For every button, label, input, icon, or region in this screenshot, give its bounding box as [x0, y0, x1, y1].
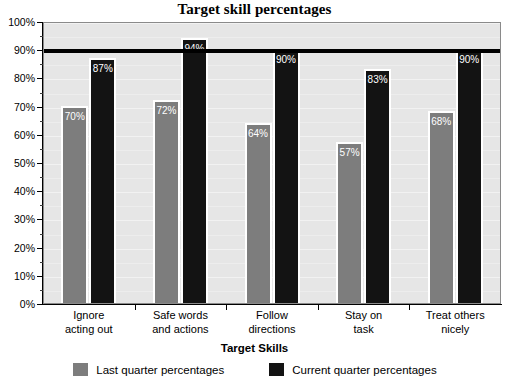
y-axis-minor-tick-mark	[40, 121, 43, 122]
bar-last-quarter: 68%	[428, 111, 455, 303]
y-axis-minor-tick-mark	[40, 36, 43, 37]
bar-value-label: 70%	[63, 111, 86, 122]
y-axis-tick-mark	[37, 191, 43, 192]
bar-current-quarter: 94%	[181, 38, 208, 303]
y-axis-tick-mark	[37, 163, 43, 164]
bar-value-label: 90%	[275, 54, 298, 65]
x-axis-line	[42, 304, 502, 305]
y-axis-minor-tick-mark	[40, 93, 43, 94]
y-axis-minor-tick-mark	[40, 64, 43, 65]
y-axis-tick-mark	[37, 78, 43, 79]
y-axis-minor-tick-mark	[40, 177, 43, 178]
legend-swatch-last-quarter	[72, 362, 89, 377]
legend-swatch-current-quarter	[268, 362, 285, 377]
x-axis-title: Target Skills	[0, 342, 509, 354]
y-axis-tick-label: 20%	[14, 243, 35, 253]
y-axis-minor-tick-mark	[40, 234, 43, 235]
reference-line-90-percent	[44, 49, 500, 53]
bar-value-label: 72%	[155, 105, 178, 116]
y-axis-tick-label: 40%	[14, 186, 35, 196]
y-axis-tick-mark	[37, 50, 43, 51]
bar-current-quarter: 90%	[273, 49, 300, 303]
gridline	[44, 23, 500, 24]
category-label-line: nicely	[409, 323, 501, 337]
y-axis-tick-mark	[37, 22, 43, 23]
gridline	[44, 37, 500, 38]
x-axis-category-label: Followdirections	[226, 309, 318, 336]
x-axis-tick-mark	[135, 305, 136, 310]
y-axis-tick-mark	[37, 276, 43, 277]
x-axis-category-label: Treat othersnicely	[409, 309, 501, 336]
x-axis-category-label: Safe wordsand actions	[135, 309, 227, 336]
x-axis-tick-mark	[409, 305, 410, 310]
y-axis-tick-label: 90%	[14, 45, 35, 55]
legend-label-current-quarter: Current quarter percentages	[292, 364, 436, 376]
y-axis-minor-tick-mark	[40, 262, 43, 263]
category-label-line: Safe words	[135, 309, 227, 323]
category-label-line: directions	[226, 323, 318, 337]
y-axis-tick-label: 60%	[14, 130, 35, 140]
category-label-line: and actions	[135, 323, 227, 337]
y-axis-tick-mark	[37, 248, 43, 249]
x-axis-category-label: Stay ontask	[318, 309, 410, 336]
legend-item-current-quarter: Current quarter percentages	[268, 362, 436, 377]
y-axis-tick-labels: 0%10%20%30%40%50%60%70%80%90%100%	[0, 0, 43, 390]
y-axis-tick-label: 0%	[20, 299, 35, 309]
x-axis-category-labels: Ignoreacting outSafe wordsand actionsFol…	[43, 309, 501, 343]
y-axis-tick-mark	[37, 135, 43, 136]
x-axis-category-label: Ignoreacting out	[43, 309, 135, 336]
plot-area: 70%87%72%94%64%90%57%83%68%90%	[43, 22, 501, 304]
bar-value-label: 68%	[430, 116, 453, 127]
category-label-line: Treat others	[409, 309, 501, 323]
y-axis-tick-label: 30%	[14, 214, 35, 224]
y-axis-minor-tick-mark	[40, 205, 43, 206]
bar-current-quarter: 90%	[456, 49, 483, 303]
bar-value-label: 83%	[366, 74, 389, 85]
bar-value-label: 57%	[338, 147, 361, 158]
bar-current-quarter: 83%	[364, 69, 391, 303]
x-axis-tick-mark	[226, 305, 227, 310]
y-axis-tick-label: 70%	[14, 102, 35, 112]
bar-last-quarter: 72%	[153, 100, 180, 303]
category-label-line: task	[318, 323, 410, 337]
y-axis-tick-label: 10%	[14, 271, 35, 281]
bar-value-label: 90%	[458, 54, 481, 65]
y-axis-tick-mark	[37, 107, 43, 108]
legend-label-last-quarter: Last quarter percentages	[96, 364, 224, 376]
bar-current-quarter: 87%	[89, 58, 116, 303]
y-axis-minor-tick-mark	[40, 290, 43, 291]
legend-item-last-quarter: Last quarter percentages	[72, 362, 224, 377]
category-label-line: Stay on	[318, 309, 410, 323]
category-label-line: Follow	[226, 309, 318, 323]
chart-legend: Last quarter percentages Current quarter…	[0, 362, 509, 377]
bar-last-quarter: 70%	[61, 106, 88, 303]
category-label-line: acting out	[43, 323, 135, 337]
bar-last-quarter: 57%	[336, 142, 363, 303]
bar-value-label: 64%	[247, 128, 270, 139]
bar-last-quarter: 64%	[245, 123, 272, 303]
category-label-line: Ignore	[43, 309, 135, 323]
y-axis-tick-mark	[37, 219, 43, 220]
chart-title: Target skill percentages	[0, 1, 509, 18]
x-axis-tick-mark	[318, 305, 319, 310]
y-axis-tick-label: 80%	[14, 73, 35, 83]
y-axis-tick-mark	[37, 304, 43, 305]
y-axis-tick-label: 100%	[8, 17, 35, 27]
y-axis-tick-label: 50%	[14, 158, 35, 168]
bar-value-label: 87%	[91, 63, 114, 74]
y-axis-minor-tick-mark	[40, 149, 43, 150]
